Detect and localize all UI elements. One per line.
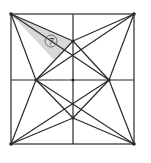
shaded-region-label: 7 (48, 37, 54, 47)
geometry-diagram: 7 (0, 0, 151, 163)
